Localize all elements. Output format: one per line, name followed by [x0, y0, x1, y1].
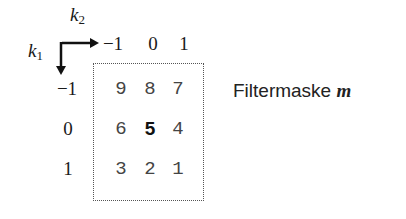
row-tick: −1 — [55, 78, 79, 100]
mask-caption: Filtermaske m — [233, 80, 351, 102]
caption-variable: m — [336, 80, 351, 101]
caption-text: Filtermaske — [233, 80, 331, 101]
mask-cell: 1 — [167, 158, 189, 180]
mask-cell: 8 — [139, 78, 161, 100]
mask-cell: 4 — [167, 118, 189, 140]
row-tick: 1 — [56, 158, 80, 180]
column-tick: −1 — [101, 33, 125, 55]
mask-cell: 3 — [110, 158, 132, 180]
k1-subscript: 1 — [36, 48, 43, 63]
k2-subscript: 2 — [78, 12, 85, 27]
mask-center-cell: 5 — [139, 118, 161, 140]
column-tick: 0 — [141, 33, 165, 55]
mask-cell: 9 — [110, 78, 132, 100]
row-tick: 0 — [56, 118, 80, 140]
mask-cell: 2 — [139, 158, 161, 180]
mask-cell: 6 — [110, 118, 132, 140]
k2-axis-label: k2 — [70, 4, 85, 28]
mask-cell: 7 — [167, 78, 189, 100]
column-tick: 1 — [172, 33, 196, 55]
k1-axis-label: k1 — [28, 40, 43, 64]
